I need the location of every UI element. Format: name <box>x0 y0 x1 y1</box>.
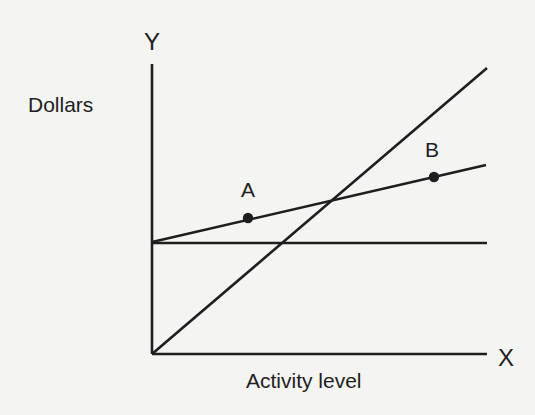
x-axis-letter: X <box>498 344 514 372</box>
cost-behavior-diagram <box>0 0 535 415</box>
variable-cost-line <box>152 68 487 354</box>
point-b-marker <box>429 172 439 182</box>
point-b-label: B <box>425 138 439 162</box>
y-axis-letter: Y <box>144 28 160 56</box>
point-a-label: A <box>241 178 255 202</box>
point-a-marker <box>243 213 253 223</box>
x-axis-title: Activity level <box>246 369 362 393</box>
y-axis-title: Dollars <box>28 93 93 117</box>
